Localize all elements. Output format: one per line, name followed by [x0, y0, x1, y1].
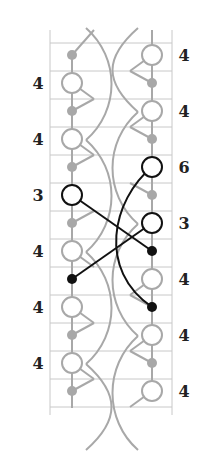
left-count-label: 4: [32, 74, 43, 93]
left-dot-node: [67, 106, 77, 116]
right-count-label: 6: [178, 158, 189, 177]
right-count-label: 4: [178, 270, 189, 289]
right-dot-node: [147, 302, 157, 312]
right-ring-node: [142, 101, 162, 121]
left-arc: [86, 28, 112, 140]
right-count-label: 4: [178, 382, 189, 401]
left-ring-node: [62, 297, 82, 317]
right-dot-node: [147, 134, 157, 144]
right-ring-node: [142, 381, 162, 401]
right-count-label: 4: [178, 46, 189, 65]
left-dot-node: [67, 162, 77, 172]
right-count-label: 4: [178, 102, 189, 121]
left-dot-node: [67, 218, 77, 228]
right-ring-node: [142, 157, 162, 177]
left-ring-node: [62, 241, 82, 261]
right-count-label: 3: [178, 214, 189, 233]
left-dot-node: [67, 50, 77, 60]
left-count-label: 4: [32, 130, 43, 149]
left-count-label: 4: [32, 242, 43, 261]
right-dot-node: [147, 246, 157, 256]
left-count-label: 4: [32, 298, 43, 317]
left-count-label: 3: [32, 186, 43, 205]
right-ring-node: [142, 325, 162, 345]
left-count-label: 4: [32, 354, 43, 373]
left-arc: [86, 252, 112, 364]
chain-diagram: 4434444463444: [0, 0, 197, 459]
right-ring-node: [142, 45, 162, 65]
left-dot-node: [67, 330, 77, 340]
left-ring-node: [62, 129, 82, 149]
right-ring-node: [142, 269, 162, 289]
left-dot-node: [67, 274, 77, 284]
right-dot-node: [147, 358, 157, 368]
left-ring-node: [62, 185, 82, 205]
right-ring-node: [142, 213, 162, 233]
active-link-left-dot-to-right3: [72, 223, 152, 279]
left-ring-node: [62, 73, 82, 93]
right-dot-node: [147, 78, 157, 88]
left-ring-node: [62, 353, 82, 373]
left-dot-node: [67, 386, 77, 396]
right-count-label: 4: [178, 326, 189, 345]
right-dot-node: [147, 190, 157, 200]
